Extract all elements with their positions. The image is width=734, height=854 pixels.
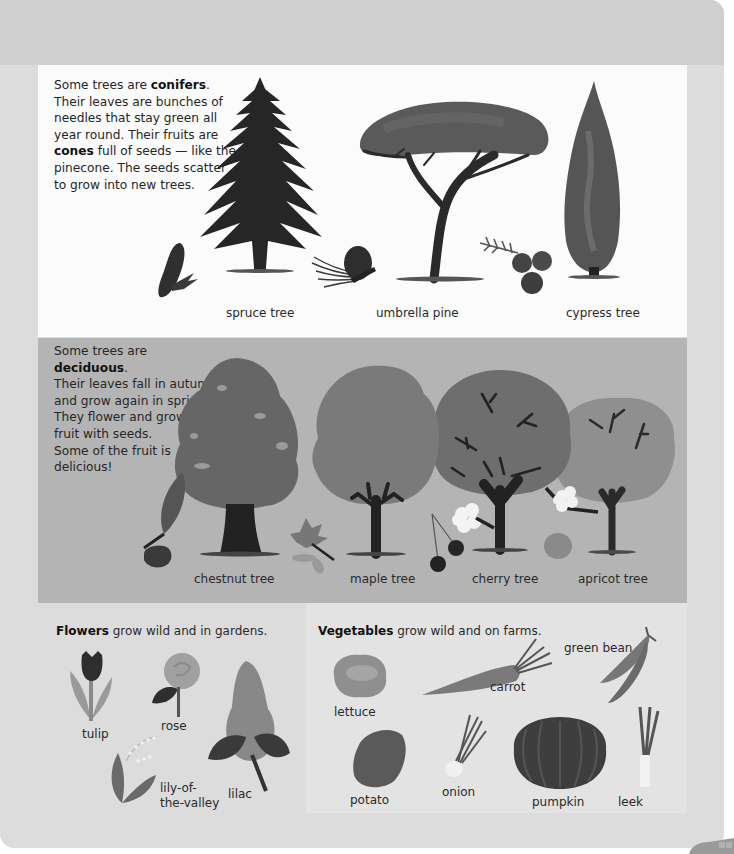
spruce-cone-icon xyxy=(154,241,202,301)
onion-icon xyxy=(440,713,488,779)
heading-rest: grow wild and in gardens. xyxy=(109,624,268,638)
rose-icon xyxy=(150,649,206,719)
heading-rest: grow wild and on farms. xyxy=(393,624,541,638)
carrot-label: carrot xyxy=(490,680,525,694)
intro-prefix: Some trees are xyxy=(54,344,147,358)
lettuce-label: lettuce xyxy=(334,705,376,719)
lettuce-icon xyxy=(330,651,390,701)
onion-label: onion xyxy=(442,785,475,799)
spruce-tree-label: spruce tree xyxy=(226,306,294,320)
tulip-label: tulip xyxy=(82,727,109,741)
flowers-heading: Flowers grow wild and in gardens. xyxy=(56,624,267,638)
green-bean-icon xyxy=(596,627,662,705)
deciduous-term: deciduous xyxy=(54,361,124,375)
pumpkin-icon xyxy=(510,715,610,791)
flowers-term: Flowers xyxy=(56,624,109,638)
rose-label: rose xyxy=(161,719,187,733)
chestnut-tree-label: chestnut tree xyxy=(194,572,274,586)
leek-label: leek xyxy=(618,795,643,809)
umbrella-pine-label: umbrella pine xyxy=(376,306,459,320)
cherry-tree-label: cherry tree xyxy=(472,572,538,586)
lily-of-the-valley-icon xyxy=(108,733,168,805)
vegetables-heading: Vegetables grow wild and on farms. xyxy=(318,624,542,638)
apricot-fruit-icon xyxy=(538,478,618,568)
leek-icon xyxy=(632,705,662,791)
maple-leaf-icon xyxy=(288,514,348,574)
tulip-icon xyxy=(66,651,116,723)
intro-prefix: Some trees are xyxy=(54,78,151,92)
carrot-icon xyxy=(420,637,554,697)
deciduous-panel: Some trees are deciduous. Their leaves f… xyxy=(38,338,687,603)
cones-term: cones xyxy=(54,144,94,158)
vegetables-panel: Vegetables grow wild and on farms. lettu… xyxy=(306,603,687,813)
apricot-tree-label: apricot tree xyxy=(578,572,648,586)
cypress-tree-label: cypress tree xyxy=(566,306,640,320)
cherries-icon xyxy=(428,488,528,578)
vegetables-term: Vegetables xyxy=(318,624,393,638)
pumpkin-label: pumpkin xyxy=(532,795,584,809)
page-corner-icon xyxy=(683,838,734,854)
label-line-2: the-valley xyxy=(160,796,219,811)
potato-icon xyxy=(350,727,408,789)
top-band xyxy=(0,0,724,65)
cypress-tree-icon xyxy=(558,81,628,281)
cypress-cones-icon xyxy=(478,235,568,297)
potato-label: potato xyxy=(350,793,389,807)
lilac-icon xyxy=(206,659,292,795)
flowers-panel: Flowers grow wild and in gardens. tulip … xyxy=(38,603,306,813)
lilac-label: lilac xyxy=(228,787,252,801)
spruce-tree-icon xyxy=(196,77,326,277)
intro-suffix: . xyxy=(124,361,128,375)
chestnut-leaf-icon xyxy=(138,464,198,574)
conifers-panel: Some trees are conifers. Their leaves ar… xyxy=(38,65,687,337)
maple-tree-label: maple tree xyxy=(350,572,415,586)
